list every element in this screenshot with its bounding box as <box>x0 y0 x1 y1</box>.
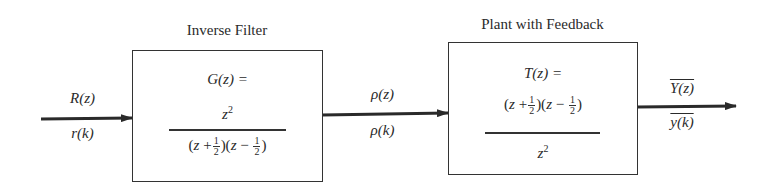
intermediate-arrow <box>322 113 448 115</box>
output-arrow <box>637 106 736 107</box>
intermediate-signal-z-label: ρ(z) <box>355 86 410 103</box>
inverse-filter-numerator: z2 <box>133 104 322 123</box>
output-signal-k-label: y(k) <box>652 114 712 131</box>
plant-with-feedback-block: T(z) = (z +12)(z − 12) z2 <box>448 42 638 175</box>
plant-lhs: T(z) = <box>449 65 637 82</box>
input-arrow <box>41 118 132 119</box>
inverse-filter-title: Inverse Filter <box>132 22 322 39</box>
input-signal-k-label: r(k) <box>55 125 110 142</box>
inverse-filter-lhs: G(z) = <box>133 71 322 88</box>
output-signal-k-text: y(k) <box>670 114 693 130</box>
input-signal-z-label: R(z) <box>55 90 110 107</box>
inverse-filter-denominator: (z +12)(z − 12) <box>133 136 322 157</box>
inverse-filter-fraction-bar <box>169 129 286 131</box>
plant-numerator: (z +12)(z − 12) <box>449 95 637 116</box>
output-signal-z-label: Y(z) <box>652 80 712 97</box>
plant-denominator: z2 <box>449 143 637 162</box>
output-signal-z-text: Y(z) <box>670 80 694 96</box>
plant-fraction-bar <box>485 132 600 134</box>
inverse-filter-block: G(z) = z2 (z +12)(z − 12) <box>132 50 323 182</box>
intermediate-signal-k-label: ρ(k) <box>355 122 410 139</box>
plant-with-feedback-title: Plant with Feedback <box>440 16 645 33</box>
